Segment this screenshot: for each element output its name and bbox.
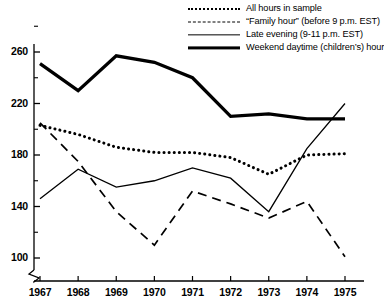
y-axis-tick-label: 100 <box>0 251 28 263</box>
x-axis-tick-label: 1969 <box>96 286 136 298</box>
y-axis-tick-label: 260 <box>0 45 28 57</box>
axis-break <box>29 270 39 282</box>
x-axis-tick-label: 1975 <box>325 286 365 298</box>
y-axis-tick-label: 180 <box>0 148 28 160</box>
x-axis-tick-label: 1972 <box>211 286 251 298</box>
x-axis-tick-label: 1967 <box>20 286 60 298</box>
y-axis-tick-label: 220 <box>0 97 28 109</box>
x-axis-tick-label: 1974 <box>287 286 327 298</box>
y-axis-tick-label: 140 <box>0 200 28 212</box>
x-axis-tick-label: 1973 <box>249 286 289 298</box>
series-all-hours <box>40 125 345 174</box>
x-axis-tick-label: 1970 <box>134 286 174 298</box>
series-weekend-daytime <box>40 56 345 119</box>
series-family-hour <box>40 123 345 257</box>
x-axis-tick-label: 1971 <box>173 286 213 298</box>
x-axis-tick-label: 1968 <box>58 286 98 298</box>
